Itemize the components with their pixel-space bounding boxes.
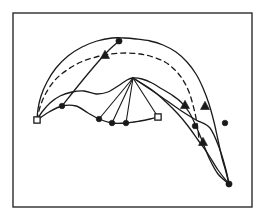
marker-node-right-circle-2 <box>222 120 228 126</box>
marker-node-lower-chain-2 <box>96 116 102 122</box>
figure-container <box>0 0 265 222</box>
marker-node-lower-chain-1 <box>59 103 65 109</box>
marker-node-lower-chain-3 <box>109 120 115 126</box>
figure-canvas <box>0 0 265 222</box>
figure-background <box>0 0 265 222</box>
marker-node-tail-tip <box>226 181 232 187</box>
marker-node-lower-chain-4 <box>123 120 129 126</box>
marker-endpoint-left-open <box>34 117 40 123</box>
marker-node-right-circle-1 <box>192 123 198 129</box>
marker-node-open-right <box>155 114 161 120</box>
marker-node-apex-top <box>116 38 122 44</box>
